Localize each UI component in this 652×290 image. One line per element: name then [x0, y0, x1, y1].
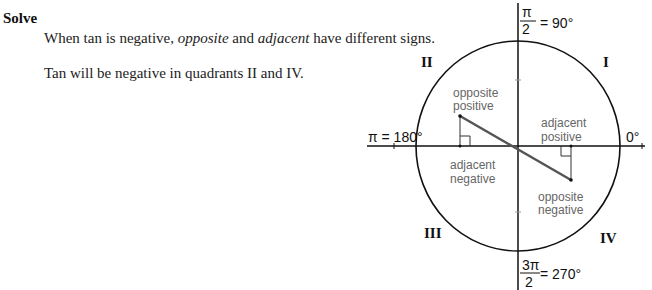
q2-opposite-sign: positive — [453, 99, 494, 113]
quadrant-label-iii: III — [424, 225, 442, 241]
angle-0: 0° — [626, 129, 639, 145]
angle-90-numerator: π — [522, 4, 532, 20]
q4-opposite-sign: negative — [538, 203, 584, 217]
angle-90-denominator: 2 — [522, 21, 530, 37]
quadrant-label-iv: IV — [600, 230, 617, 246]
angle-90-degrees: = 90° — [540, 15, 573, 31]
unit-circle-diagram: II I III IV π 2 = 90° π = 180° 0° 3π 2 =… — [0, 0, 652, 290]
q4-adjacent-label: adjacent — [541, 116, 587, 130]
quadrant-label-ii: II — [421, 54, 433, 70]
q2-adjacent-sign: negative — [450, 172, 496, 186]
angle-270-numerator: 3π — [522, 257, 540, 273]
q4-opposite-label: opposite — [538, 190, 584, 204]
angle-270-degrees: = 270° — [540, 266, 581, 282]
q4-adjacent-sign: positive — [541, 130, 582, 144]
angle-270-denominator: 2 — [525, 274, 533, 290]
angle-180: π = 180° — [368, 129, 423, 145]
q2-adjacent-label: adjacent — [450, 158, 496, 172]
quadrant-label-i: I — [603, 54, 609, 70]
q2-opposite-label: opposite — [453, 86, 499, 100]
